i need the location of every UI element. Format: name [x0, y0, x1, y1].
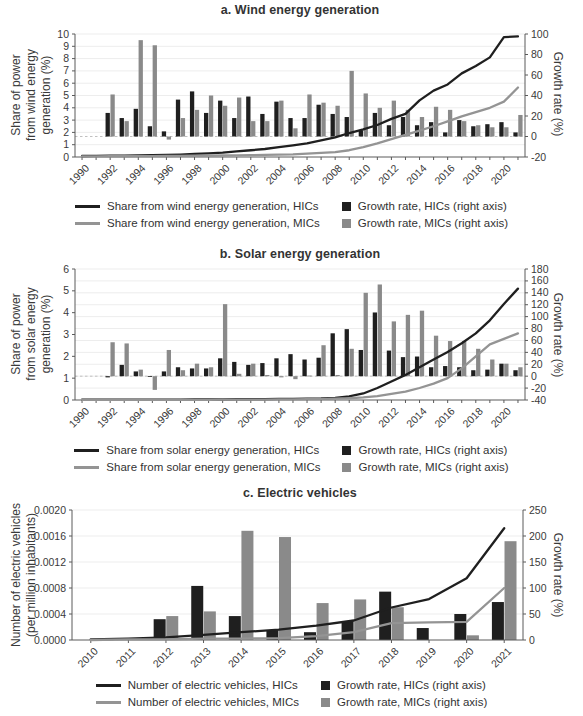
svg-text:2012: 2012: [376, 405, 401, 430]
x-tick-labels: 2010201120122013201420152016201720182019…: [75, 645, 514, 670]
svg-text:20: 20: [531, 110, 543, 122]
svg-text:2006: 2006: [291, 162, 316, 187]
svg-text:120: 120: [531, 298, 549, 310]
svg-text:2010: 2010: [348, 162, 373, 187]
svg-text:6: 6: [63, 77, 69, 89]
svg-text:2014: 2014: [404, 405, 429, 430]
mic-bar-swatch: [342, 219, 351, 228]
svg-text:2016: 2016: [301, 645, 326, 670]
hic-line-swatch: [96, 684, 121, 687]
legend-item-wind-share-hic: Share from wind energy generation, HICs: [75, 200, 320, 212]
legend-label: Number of electric vehicles, MICs: [128, 696, 299, 708]
mic-line-swatch: [96, 701, 121, 704]
svg-text:20: 20: [531, 358, 543, 370]
svg-text:1998: 1998: [179, 162, 204, 187]
svg-text:2014: 2014: [225, 645, 250, 670]
mic-line-swatch: [75, 222, 100, 225]
svg-text:3: 3: [63, 328, 69, 340]
svg-text:2010: 2010: [348, 405, 373, 430]
svg-text:2000: 2000: [207, 162, 232, 187]
wind-chart-block: a. Wind energy generation Share of power…: [0, 0, 583, 238]
hic-line-swatch: [74, 449, 99, 452]
hic-share-line: [82, 289, 518, 400]
wind-chart-title: a. Wind energy generation: [75, 3, 525, 17]
svg-text:1: 1: [63, 138, 69, 150]
svg-text:40: 40: [531, 89, 543, 101]
svg-text:-20: -20: [531, 382, 546, 394]
svg-text:1992: 1992: [94, 405, 119, 430]
hic-share-line: [82, 36, 518, 156]
svg-text:2002: 2002: [235, 162, 260, 187]
svg-text:0.0004: 0.0004: [34, 608, 66, 620]
svg-text:0.0000: 0.0000: [34, 634, 66, 646]
legend-label: Growth rate, HICs (right axis): [358, 444, 507, 456]
gridlines: [72, 510, 523, 614]
svg-text:9: 9: [63, 40, 69, 52]
svg-text:2018: 2018: [460, 405, 485, 430]
svg-text:5: 5: [63, 89, 69, 101]
svg-text:0.0020: 0.0020: [34, 506, 66, 516]
ev-plot: 0.00000.00040.00080.00120.00160.00200501…: [0, 506, 583, 680]
svg-text:2010: 2010: [75, 645, 100, 670]
svg-text:100: 100: [531, 28, 549, 40]
figure-page: { "colors": { "hic": "#1f1f1f", "mic": "…: [0, 0, 583, 716]
svg-text:5: 5: [63, 284, 69, 296]
svg-text:2002: 2002: [235, 405, 260, 430]
hic-bar-swatch: [342, 202, 351, 211]
svg-text:0: 0: [63, 394, 69, 406]
svg-text:2012: 2012: [376, 162, 401, 187]
solar-plot: 0123456-40-20020406080100120140160180199…: [0, 264, 583, 442]
svg-text:1990: 1990: [66, 162, 91, 187]
svg-text:10: 10: [57, 28, 69, 40]
legend-label: Growth rate, HICs (right axis): [358, 200, 507, 212]
svg-text:2019: 2019: [413, 645, 438, 670]
svg-text:4: 4: [63, 306, 69, 318]
wind-plot: 012345678910-200204060801001990199219941…: [0, 18, 583, 200]
svg-text:8: 8: [63, 52, 69, 64]
svg-text:2016: 2016: [432, 162, 457, 187]
legend-label: Growth rate, MICs (right axis): [337, 696, 487, 708]
wind-legend: Share from wind energy generation, HICs …: [0, 200, 583, 229]
mic-bar-swatch: [342, 463, 351, 472]
svg-text:4: 4: [63, 101, 69, 113]
legend-label: Share from solar energy generation, MICs: [106, 461, 320, 473]
legend-label: Growth rate, HICs (right axis): [337, 679, 486, 691]
svg-text:7: 7: [63, 64, 69, 76]
svg-text:0: 0: [531, 130, 537, 142]
svg-text:180: 180: [531, 264, 549, 275]
legend-item-solar-growth-mic: Growth rate, MICs (right axis): [334, 461, 508, 473]
svg-text:1: 1: [63, 372, 69, 384]
svg-text:1996: 1996: [151, 162, 176, 187]
hic-bar-swatch: [342, 446, 351, 455]
svg-text:2000: 2000: [207, 405, 232, 430]
svg-text:2020: 2020: [488, 162, 513, 187]
solar-chart-block: b. Solar energy generation Share of powe…: [0, 238, 583, 478]
svg-text:1992: 1992: [94, 162, 119, 187]
svg-text:2017: 2017: [338, 645, 363, 670]
svg-text:6: 6: [63, 264, 69, 275]
svg-text:0.0012: 0.0012: [34, 556, 66, 568]
legend-item-solar-share-hic: Share from solar energy generation, HICs: [74, 444, 320, 456]
x-tick-labels: 1990199219941996199820002002200420062008…: [66, 162, 513, 187]
legend-label: Number of electric vehicles, HICs: [128, 679, 298, 691]
legend-item-ev-growth-mic: Growth rate, MICs (right axis): [313, 696, 487, 708]
svg-text:0.0008: 0.0008: [34, 582, 66, 594]
svg-text:60: 60: [531, 69, 543, 81]
svg-text:2004: 2004: [263, 405, 288, 430]
svg-text:2008: 2008: [319, 405, 344, 430]
svg-text:2: 2: [63, 126, 69, 138]
axes: [72, 269, 528, 403]
svg-text:2018: 2018: [376, 645, 401, 670]
svg-text:0: 0: [529, 634, 535, 646]
svg-text:2014: 2014: [404, 162, 429, 187]
svg-text:2012: 2012: [150, 645, 175, 670]
x-tick-labels: 1990199219941996199820002002200420062008…: [66, 405, 513, 430]
svg-text:0: 0: [63, 151, 69, 163]
svg-text:2015: 2015: [263, 645, 288, 670]
solar-chart-title: b. Solar energy generation: [75, 247, 525, 261]
legend-label: Share from wind energy generation, HICs: [107, 200, 319, 212]
ev-chart-block: c. Electric vehicles Number of electric …: [0, 478, 583, 716]
hic-bar-swatch: [321, 681, 330, 690]
svg-text:-20: -20: [531, 151, 546, 163]
legend-item-solar-share-mic: Share from solar energy generation, MICs: [74, 461, 320, 473]
